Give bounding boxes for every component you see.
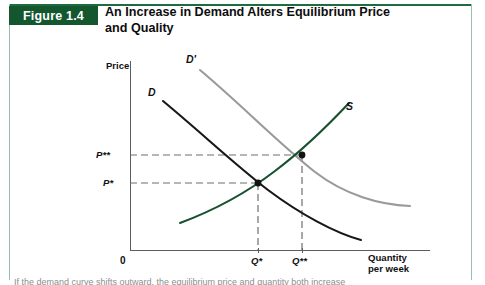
demand-curve-shifted <box>200 70 410 206</box>
x-axis-label: Quantity per week <box>368 253 409 274</box>
origin-label: 0 <box>120 255 126 266</box>
curve-label-demand-shifted: D' <box>186 53 196 65</box>
y-axis-label: Price <box>106 60 129 71</box>
figure-page: Figure 1.4 An Increase in Demand Alters … <box>0 0 485 285</box>
quantity-label-initial: Q* <box>251 255 262 266</box>
chart-plot-area: Price 0 Quantity per week P** P* Q* Q** … <box>0 0 485 285</box>
x-tick-qss <box>302 248 303 253</box>
curve-label-demand: D <box>148 86 156 98</box>
quantity-label-new: Q** <box>292 255 307 266</box>
caption-cut-off: If the demand curve shifts outward, the … <box>14 277 464 285</box>
supply-curve <box>180 103 349 223</box>
equilibrium-point-new <box>299 152 306 159</box>
x-axis-label-line-1: Quantity <box>368 252 407 263</box>
equilibrium-point-initial <box>255 180 262 187</box>
price-label-initial: P* <box>103 177 113 188</box>
price-label-new: P** <box>96 149 110 160</box>
x-tick-qs <box>258 248 259 253</box>
x-axis-label-line-2: per week <box>368 263 409 274</box>
chart-curves-svg <box>0 0 485 285</box>
curve-label-supply: S <box>346 100 353 112</box>
